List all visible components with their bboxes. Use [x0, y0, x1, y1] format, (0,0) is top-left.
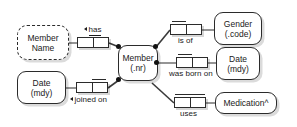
predicate-has[interactable]	[77, 37, 109, 48]
object-date-born-line1: Date	[229, 54, 247, 64]
connection-dot-bottom-left	[116, 77, 121, 82]
predicate-uses-role-1[interactable]	[175, 98, 190, 107]
object-member-name-line1: Member	[27, 33, 58, 43]
label-was-born-on-text: was born on	[169, 69, 213, 78]
predicate-uses-role-2[interactable]	[190, 98, 205, 107]
connection-dot-right-middle	[154, 60, 159, 65]
predicate-was-born-on-role-2[interactable]	[192, 58, 207, 67]
uniqueness-bar-uses	[175, 94, 205, 95]
predicate-was-born-on-role-1[interactable]	[177, 58, 192, 67]
connection-dot-top-right	[153, 44, 158, 49]
entity-member[interactable]: Member (.nr)	[118, 45, 158, 81]
orm-diagram: Member Name Date (mdy) Member (.nr) Gend…	[0, 0, 297, 127]
object-date-joined-line2: (mdy)	[31, 88, 53, 98]
object-medication[interactable]: Medication^	[215, 92, 277, 114]
predicate-was-born-on[interactable]	[176, 57, 208, 68]
entity-member-line1: Member	[122, 53, 153, 63]
connection-dot-top-left	[116, 44, 121, 49]
predicate-is-of[interactable]	[170, 24, 202, 35]
label-is-of-text: is of	[178, 36, 193, 45]
predicate-is-of-role-2[interactable]	[186, 25, 201, 34]
label-joined-on-text: joined on	[75, 95, 107, 104]
object-gender-line1: Gender	[224, 19, 252, 29]
predicate-joined-on[interactable]	[76, 82, 108, 93]
object-medication-line1: Medication^	[223, 98, 268, 108]
uniqueness-bar-is-of	[172, 21, 186, 22]
reading-direction-arrow-icon	[84, 27, 87, 31]
object-date-joined-line1: Date	[33, 78, 51, 88]
entity-member-line2: (.nr)	[130, 63, 146, 73]
label-has: has	[84, 25, 101, 34]
label-uses: uses	[180, 109, 197, 118]
object-date-born[interactable]: Date (mdy)	[216, 47, 260, 80]
label-was-born-on: was born on	[169, 69, 213, 78]
predicate-joined-on-role-2[interactable]	[92, 83, 107, 92]
predicate-joined-on-role-1[interactable]	[77, 83, 92, 92]
object-gender-line2: (.code)	[225, 29, 251, 39]
label-joined-on: joined on	[70, 95, 107, 104]
predicate-uses[interactable]	[174, 97, 206, 108]
predicate-has-role-1[interactable]	[78, 38, 93, 47]
uniqueness-bar-joined-on	[92, 79, 106, 80]
object-date-joined[interactable]: Date (mdy)	[17, 71, 66, 104]
reading-direction-arrow-icon	[70, 97, 73, 101]
object-date-born-line2: (mdy)	[227, 64, 249, 74]
object-gender[interactable]: Gender (.code)	[214, 12, 262, 45]
uniqueness-bar-was-born-on	[178, 54, 192, 55]
object-member-name-line2: Name	[32, 43, 55, 53]
label-is-of: is of	[178, 36, 193, 45]
label-has-text: has	[89, 25, 102, 36]
predicate-is-of-role-1[interactable]	[171, 25, 186, 34]
label-uses-text: uses	[180, 109, 197, 118]
predicate-has-role-2[interactable]	[93, 38, 108, 47]
object-member-name[interactable]: Member Name	[17, 25, 69, 60]
